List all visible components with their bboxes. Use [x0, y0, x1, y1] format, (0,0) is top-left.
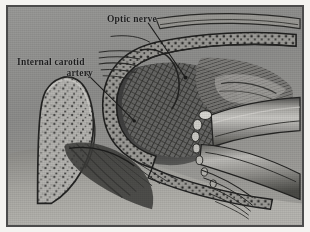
figure-root: Optic nerve Internal carotid artery	[0, 0, 310, 232]
plate-frame: Optic nerve Internal carotid artery	[6, 5, 304, 227]
illustration-canvas	[8, 7, 302, 225]
leader-dot-optic-nerve	[184, 76, 188, 80]
leader-dot-carotid	[133, 119, 136, 122]
